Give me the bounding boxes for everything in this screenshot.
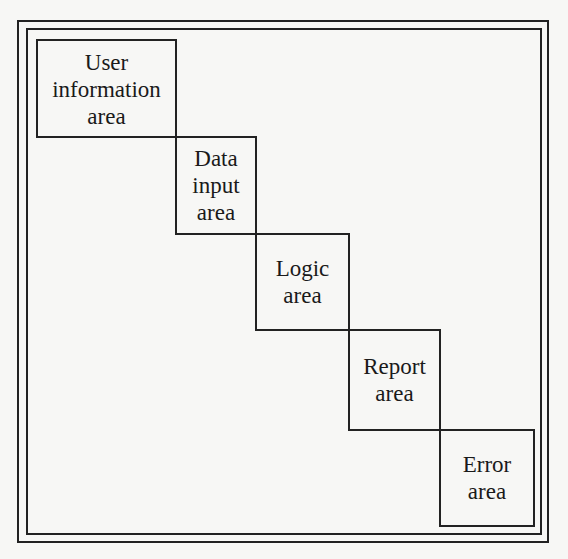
user-information-area-label: User information area	[52, 49, 161, 130]
user-information-area-box: User information area	[36, 39, 177, 138]
logic-area-box: Logic area	[255, 233, 350, 331]
data-input-area-box: Data input area	[175, 136, 257, 235]
report-area-box: Report area	[348, 329, 441, 431]
error-area-box: Error area	[439, 429, 535, 527]
error-area-label: Error area	[463, 451, 512, 505]
report-area-label: Report area	[363, 353, 426, 407]
data-input-area-label: Data input area	[192, 145, 239, 226]
logic-area-label: Logic area	[276, 255, 330, 309]
